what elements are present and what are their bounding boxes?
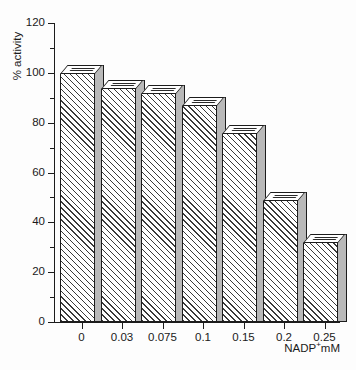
bar-top-hatch-line: [110, 85, 134, 86]
y-tick-minor: [50, 247, 55, 248]
bar: [222, 125, 265, 322]
bar-front-face: [303, 242, 338, 322]
bar-top-hatch-line: [152, 88, 176, 89]
y-tick-major: [48, 173, 55, 174]
y-tick-major: [48, 272, 55, 273]
bar-front-face: [60, 73, 95, 322]
x-tick: [163, 323, 164, 329]
x-tick: [325, 323, 326, 329]
bar: [60, 65, 103, 322]
bar-top-face: [263, 192, 306, 201]
bar-top-face: [60, 65, 103, 74]
bar-chart-figure: % activity 020406080100120 00.030.0750.1…: [0, 0, 356, 370]
bar-top-hatch-line: [191, 102, 215, 103]
bar-front-face: [101, 88, 136, 322]
y-tick-label: 80: [0, 117, 45, 129]
y-tick-major: [48, 73, 55, 74]
y-tick-label: 120: [0, 17, 45, 29]
x-tick: [82, 323, 83, 329]
x-tick: [284, 323, 285, 329]
y-tick-major: [48, 222, 55, 223]
y-tick-major: [48, 123, 55, 124]
bar: [263, 192, 306, 322]
bar-top-face: [141, 85, 184, 94]
bar-top-face: [101, 80, 144, 89]
bar-top-hatch-line: [69, 70, 93, 71]
y-tick-label: 60: [0, 167, 45, 179]
y-tick-minor: [50, 148, 55, 149]
y-tick-minor: [50, 197, 55, 198]
bar: [303, 234, 346, 322]
x-axis-title: NADP+mM: [0, 340, 340, 354]
bar-top-hatch-line: [233, 128, 257, 129]
bar-front-face: [222, 133, 257, 322]
bar-top-hatch-line: [274, 195, 298, 196]
x-tick: [244, 323, 245, 329]
bar-top-hatch-line: [272, 197, 296, 198]
x-axis-line: [54, 322, 340, 323]
x-tick: [122, 323, 123, 329]
bar-top-hatch-line: [231, 130, 255, 131]
x-axis-title-unit: mM: [321, 342, 340, 354]
bar-top-hatch-line: [312, 239, 336, 240]
y-tick-major: [48, 23, 55, 24]
bar-top-hatch-line: [112, 83, 136, 84]
bar: [141, 85, 184, 322]
y-tick-label: 100: [0, 67, 45, 79]
y-tick-minor: [50, 48, 55, 49]
bar-top-face: [182, 97, 225, 106]
y-tick-minor: [50, 297, 55, 298]
bar-top-face: [222, 125, 265, 134]
bar: [101, 80, 144, 322]
bar-top-hatch-line: [71, 68, 95, 69]
bar-front-face: [263, 200, 298, 322]
bar: [182, 97, 225, 322]
bar-side-face: [338, 234, 347, 322]
bar-top-hatch-line: [150, 90, 174, 91]
y-tick-minor: [50, 98, 55, 99]
x-tick: [203, 323, 204, 329]
y-tick-label: 40: [0, 216, 45, 228]
y-tick-label: 0: [0, 316, 45, 328]
bar-front-face: [141, 93, 176, 322]
x-axis-title-base: NADP: [284, 342, 316, 354]
y-tick-label: 20: [0, 266, 45, 278]
bar-front-face: [182, 105, 217, 322]
